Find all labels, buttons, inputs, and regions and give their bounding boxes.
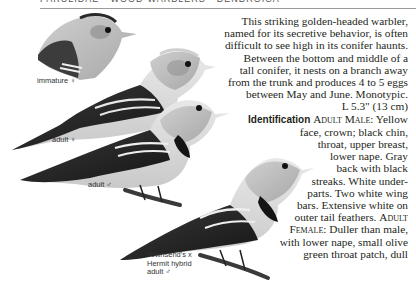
identification-paragraph: Identification Adult Male: Yellow face, … — [212, 113, 408, 260]
id-text: outer tail feathers. — [295, 211, 377, 223]
id-line: throat, upper breast, — [212, 138, 408, 150]
id-text: Duller than male, — [329, 223, 408, 235]
id-line: outer tail feathers. Adult — [212, 211, 408, 223]
label-adult-male: adult ♂ — [88, 181, 112, 190]
intro-line: This striking golden-headed warbler, — [212, 15, 408, 27]
intro-line: between May and June. Monotypic. — [212, 88, 408, 100]
id-line: with lower nape, small olive — [212, 236, 408, 248]
id-line: face, crown; black chin, — [212, 126, 408, 138]
id-line: parts. Two white wing — [212, 187, 408, 199]
intro-line: tall conifer, it nests on a branch away — [212, 64, 408, 76]
adult-female-label-part1: Adult — [379, 211, 408, 223]
identification-heading: Identification — [248, 114, 310, 125]
id-line: lower nape. Gray — [212, 150, 408, 162]
id-line: green throat patch, dull — [212, 248, 408, 260]
species-text: This striking golden-headed warbler, nam… — [212, 15, 408, 260]
id-text: Yellow — [376, 113, 408, 125]
id-line: bars. Extensive white on — [212, 199, 408, 211]
intro-line: difficult to see high in its conifer hau… — [212, 39, 408, 51]
adult-male-label: Adult Male: — [313, 113, 373, 125]
id-line: streaks. White under- — [212, 175, 408, 187]
immature-female-bird — [38, 15, 137, 80]
label-adult-female: adult ♀ — [52, 136, 76, 145]
label-hybrid: Townsend's x Hermit hybrid adult ♂ — [147, 251, 192, 277]
intro-line: from the trunk and produces 4 to 5 eggs — [212, 76, 408, 88]
intro-paragraph: This striking golden-headed warbler, nam… — [212, 15, 408, 113]
id-line: Female: Duller than male, — [212, 223, 408, 235]
length-line: L 5.3" (13 cm) — [212, 100, 408, 112]
label-hybrid-line-3: adult ♂ — [147, 268, 192, 277]
intro-line: Between the bottom and middle of a — [212, 52, 408, 64]
identification-line: Identification Adult Male: Yellow — [212, 113, 408, 126]
label-immature-female: immature ♀ — [37, 77, 76, 86]
id-line: back with black — [212, 162, 408, 174]
intro-line: named for its secretive behavior, is oft… — [212, 27, 408, 39]
adult-female-label-part2: Female: — [289, 223, 326, 235]
